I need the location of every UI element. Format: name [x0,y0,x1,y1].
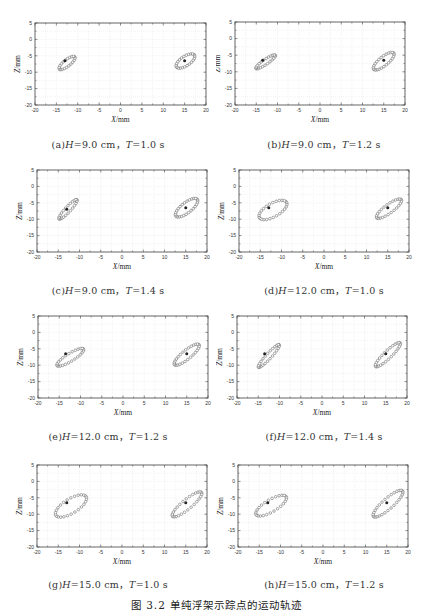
y-tick-label: 0 [233,183,236,189]
y-tick-label: -20 [229,249,236,255]
x-tick-label: 15 [385,254,391,260]
x-tick-label: 10 [364,254,370,260]
x-tick-label: -20 [231,107,238,113]
x-tick-label: 0 [119,107,122,113]
y-tick-label: 5 [231,313,234,319]
y-tick-label: -5 [228,52,233,58]
subfigure-caption: (d)H=12.0 cm，T=1.0 s [216,283,432,297]
x-axis-label: X/mm [313,557,333,566]
x-tick-label: 20 [404,400,410,406]
x-tick-label: -15 [257,254,264,260]
x-axis-label: X/mm [314,262,334,271]
y-tick-label: 0 [232,478,235,484]
y-tick-label: 0 [29,36,32,42]
y-tick-label: -20 [27,544,34,550]
x-tick-label: 5 [344,254,347,260]
tracer-center-point [263,352,266,355]
tracer-center-point [384,352,387,355]
subfigure-caption: (g)H=15.0 cm，T=1.0 s [0,577,216,591]
scatter-plot: -20-15-10-50510152050-5-10-15-20X/mmZ/mm [0,148,216,298]
figure-caption: 图 3.2 单纯浮架示踪点的运动轨迹 [0,597,433,612]
x-tick-label: -15 [55,254,62,260]
x-tick-label: -5 [97,107,102,113]
x-tick-label: 0 [121,254,124,260]
x-tick-label: 20 [402,107,408,113]
y-axis-label: Z/mm [15,497,24,515]
x-axis-label: X/mm [312,408,332,417]
x-tick-label: -5 [299,400,304,406]
x-tick-label: 15 [184,400,190,406]
y-tick-label: -10 [28,362,35,368]
x-tick-label: -15 [53,107,60,113]
y-tick-label: -5 [31,346,36,352]
left-trajectory [258,199,288,221]
x-tick-label: -15 [56,400,63,406]
x-tick-label: 15 [183,549,189,555]
tracer-center-point [266,501,269,504]
x-tick-label: -5 [297,107,302,113]
y-tick-label: -5 [230,346,235,352]
chart-panel-e: -20-15-10-50510152050-5-10-15-20X/mmZ/mm… [0,296,216,446]
y-tick-label: 0 [229,35,232,41]
right-trajectory [374,341,402,368]
subfigure-caption: (f)H=12.0 cm，T=1.4 s [216,429,432,443]
y-axis-label: Z/mm [216,497,225,515]
x-tick-label: 20 [204,254,210,260]
y-tick-label: -20 [25,102,32,108]
x-tick-label: 15 [384,549,390,555]
x-tick-label: 15 [381,107,387,113]
tracer-center-point [64,352,67,355]
x-tick-label: 5 [343,549,346,555]
scatter-plot: -20-15-10-50510152050-5-10-15-20X/mmZ/mm [216,296,432,446]
tracer-center-point [65,501,68,504]
y-tick-label: -20 [228,544,235,550]
left-trajectory [255,54,277,70]
tracer-center-point [382,59,385,62]
x-tick-label: 20 [204,549,210,555]
scatter-plot: -20-15-10-50510152050-5-10-15-20X/mmZ/mm [216,148,432,298]
x-tick-label: -15 [55,549,62,555]
tracer-center-point [267,206,270,209]
x-tick-label: 15 [183,254,189,260]
y-tick-label: -10 [225,69,232,75]
x-tick-label: -10 [74,107,81,113]
x-tick-label: 20 [205,400,211,406]
left-trajectory [255,494,288,517]
y-tick-label: -15 [28,378,35,384]
y-tick-label: -15 [229,232,236,238]
y-tick-label: 0 [31,183,34,189]
x-tick-label: -10 [77,400,84,406]
y-axis-label: Z/mm [217,202,226,220]
x-tick-label: 5 [142,254,145,260]
y-tick-label: 5 [233,167,236,173]
x-tick-label: -10 [274,107,281,113]
y-axis-label: Z/mm [15,202,24,220]
tracer-center-point [261,59,264,62]
x-tick-label: 10 [162,254,168,260]
x-tick-label: -5 [301,254,306,260]
y-tick-label: -15 [27,527,34,533]
x-tick-label: 5 [342,400,345,406]
y-tick-label: -10 [27,511,34,517]
x-tick-label: 10 [160,107,166,113]
y-tick-label: -20 [27,249,34,255]
x-tick-label: -15 [255,400,262,406]
y-tick-label: -20 [227,395,234,401]
y-tick-label: -15 [225,85,232,91]
y-tick-label: -15 [27,232,34,238]
x-axis-label: X/mm [310,115,330,124]
x-axis-label: X/mm [112,557,132,566]
x-tick-label: -10 [276,400,283,406]
chart-panel-b: -20-15-10-50510152050-5-10-15-20X/mmZ/mm… [216,0,432,150]
y-tick-label: 0 [231,329,234,335]
x-tick-label: -20 [234,549,241,555]
x-tick-label: -10 [76,254,83,260]
x-tick-label: -20 [235,254,242,260]
chart-panel-g: -20-15-10-50510152050-5-10-15-20X/mmZ/mm… [0,444,216,594]
subfigure-caption: (h)H=15.0 cm，T=1.2 s [216,577,432,591]
x-tick-label: 15 [182,107,188,113]
y-tick-label: -5 [231,495,236,501]
tracer-center-point [184,501,187,504]
chart-panel-h: -20-15-10-50510152050-5-10-15-20X/mmZ/mm… [216,444,432,594]
x-tick-label: -20 [34,400,41,406]
